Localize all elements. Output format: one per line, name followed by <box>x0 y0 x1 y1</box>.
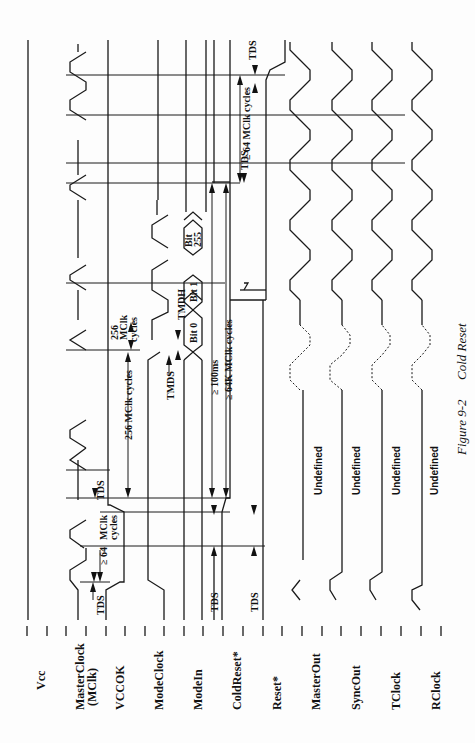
label-modein: ModeIn <box>191 669 205 710</box>
cold-reset-timing-diagram: Vcc MasterClock (MClk) VCCOK ModeClock M… <box>0 0 475 743</box>
caption-title: Cold Reset <box>454 323 469 380</box>
undefined-labels: Undefined Undefined Undefined Undefined <box>313 446 440 495</box>
label-syncout: SyncOut <box>349 665 363 710</box>
waveform-reset <box>230 40 285 620</box>
label-masterclock-sub: (MClk) <box>85 668 99 706</box>
label-coldreset: ColdReset* <box>230 651 244 710</box>
timing-annotations: TDS ≥ 64 MClk cycles TDS 256 MClk cycles… <box>90 40 260 615</box>
signal-labels: Vcc MasterClock (MClk) VCCOK ModeClock M… <box>34 643 443 710</box>
label-tclock: TClock <box>389 672 403 710</box>
waveform-masterclock <box>70 44 86 620</box>
label-masterout: MasterOut <box>309 653 323 710</box>
waveform-rclock <box>412 42 432 610</box>
waveform-tclock <box>370 42 392 600</box>
label-vccok: VCCOK <box>113 665 127 710</box>
label-rclock: RClock <box>429 671 443 710</box>
document-page: Vcc MasterClock (MClk) VCCOK ModeClock M… <box>0 0 475 743</box>
waveform-syncout <box>330 42 352 600</box>
tmdh: TMDH <box>176 289 187 320</box>
bit1-label: Bit 1 <box>188 282 199 302</box>
bit0-label: Bit 0 <box>188 323 199 343</box>
ge-100ms: ≥ 100ms <box>209 360 220 395</box>
tds-mclk-bottom: TDS <box>95 595 106 615</box>
figure-caption: Figure 9-2 Cold Reset <box>454 323 469 456</box>
tds-top: TDS <box>247 40 258 60</box>
tds-coldreset: TDS <box>209 592 220 612</box>
ge-64-mclk-cycles: ≥ 64 MClk cycles <box>241 87 252 160</box>
undefined-masterout: Undefined <box>313 446 324 495</box>
waveform-masterout <box>290 42 310 600</box>
label-modeclock: ModeClock <box>152 650 166 710</box>
cycles-a: cycles <box>108 515 119 540</box>
undefined-rclock: Undefined <box>429 446 440 495</box>
tds-reset: TDS <box>249 592 260 612</box>
bit255-label-b: 255 <box>192 232 203 247</box>
undefined-syncout: Undefined <box>351 446 362 495</box>
tmds: TMDS <box>165 371 176 400</box>
ge-64k: ≥ 64K MClk cycles <box>223 319 234 400</box>
label-vcc: Vcc <box>34 670 48 690</box>
waveform-modein: Bit 0 Bit 1 Bit 255 <box>183 40 206 620</box>
label-reset: Reset* <box>270 676 284 710</box>
lane-tick-marks <box>27 626 441 636</box>
waveform-modeclock <box>148 40 168 620</box>
caption-number: Figure 9-2 <box>454 399 469 456</box>
undefined-tclock: Undefined <box>391 446 402 495</box>
